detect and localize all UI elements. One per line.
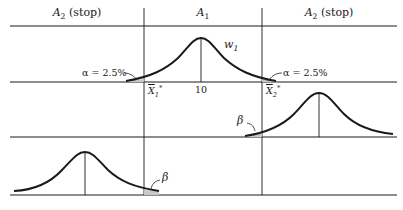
decision-diagram — [0, 0, 403, 210]
header-center-subscript: 1 — [205, 12, 210, 21]
critical-value-x2: X2* — [266, 84, 280, 99]
alpha-right-label: α = 2.5% — [283, 67, 328, 78]
header-right-a2-stop: A2 (stop) — [305, 6, 354, 21]
beta-row2-pointer — [247, 123, 255, 131]
x1-superscript: * — [159, 84, 162, 92]
alpha-left-label: α = 2.5% — [82, 67, 127, 78]
x1-symbol: X — [148, 85, 155, 96]
beta-label-row2: β — [237, 114, 243, 127]
curve-row3 — [14, 152, 159, 191]
header-center-a1: A1 — [197, 6, 210, 21]
critical-value-x1: X1* — [148, 84, 162, 99]
x2-symbol: X — [266, 85, 273, 96]
tick-label-10: 10 — [195, 84, 207, 95]
x2-superscript: * — [277, 84, 280, 92]
header-left-suffix: (stop) — [66, 6, 102, 19]
curve-label-subscript: 1 — [233, 44, 238, 53]
beta-label-row3: β — [162, 171, 168, 184]
alpha-right-pointer — [270, 73, 282, 79]
x1-subscript: 1 — [155, 91, 159, 99]
header-right-suffix: (stop) — [318, 6, 354, 19]
header-right-symbol: A — [305, 6, 313, 19]
beta-row3-pointer — [151, 180, 160, 189]
header-center-symbol: A — [197, 6, 205, 19]
x2-subscript: 2 — [273, 91, 277, 99]
header-left-symbol: A — [53, 6, 61, 19]
curve-label-w1: w1 — [224, 38, 238, 53]
curve-label-main: w — [224, 38, 233, 51]
header-left-a2-stop: A2 (stop) — [53, 6, 102, 21]
